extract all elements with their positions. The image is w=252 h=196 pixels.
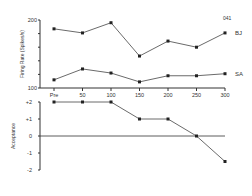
y-tick-label: 100 <box>28 85 37 91</box>
firing-rate-chart: 200100Pre50100150200250300Firing Rate (S… <box>19 15 243 98</box>
data-point <box>167 40 170 43</box>
x-tick-label: 250 <box>192 92 201 98</box>
annotation: 041 <box>223 15 232 21</box>
data-point <box>195 46 198 49</box>
x-tick-label: Pre <box>50 92 59 98</box>
data-point <box>167 118 170 121</box>
data-point <box>81 31 84 34</box>
data-point <box>53 78 56 81</box>
x-tick-label: 100 <box>106 92 115 98</box>
acceptance-chart: +2+10-1-2Acceptance <box>10 99 227 173</box>
y-tick-label: -2 <box>27 167 32 173</box>
y-axis-label: Firing Rate (Spikes/s) <box>19 30 25 78</box>
data-point <box>195 135 198 138</box>
chart: 200100Pre50100150200250300Firing Rate (S… <box>0 0 252 196</box>
series-line-sa <box>54 69 225 82</box>
data-point <box>53 27 56 30</box>
data-point <box>195 74 198 77</box>
x-tick-label: 50 <box>79 92 85 98</box>
y-tick-label: +1 <box>26 116 32 122</box>
data-point <box>224 31 227 34</box>
data-point <box>81 101 84 104</box>
data-point <box>110 72 113 75</box>
x-tick-label: 200 <box>163 92 172 98</box>
y-tick-label: -1 <box>27 150 32 156</box>
x-tick-label: 300 <box>220 92 229 98</box>
y-tick-label: 0 <box>29 133 32 139</box>
data-point <box>53 101 56 104</box>
data-point <box>167 74 170 77</box>
data-point <box>110 21 113 24</box>
series-label: BJ <box>235 30 242 36</box>
data-point <box>224 160 227 163</box>
y-axis-label: Acceptance <box>10 123 16 149</box>
data-point <box>138 80 141 83</box>
data-point <box>81 67 84 70</box>
y-tick-label: +2 <box>26 99 32 105</box>
acceptance-line <box>54 102 225 162</box>
data-point <box>110 101 113 104</box>
data-point <box>138 118 141 121</box>
data-point <box>224 72 227 75</box>
x-tick-label: 150 <box>135 92 144 98</box>
series-line-bj <box>54 23 225 56</box>
data-point <box>138 55 141 58</box>
series-label: SA <box>235 71 243 77</box>
y-tick-label: 200 <box>28 17 37 23</box>
